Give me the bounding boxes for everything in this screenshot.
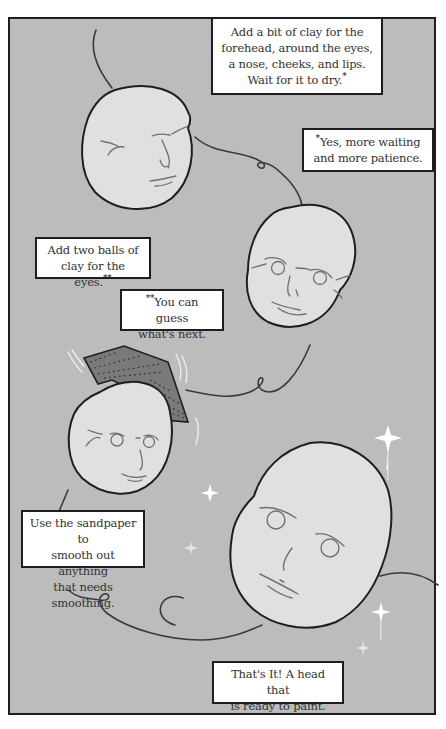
caption-line: Use the sandpaper to <box>29 515 137 547</box>
caption-line: a nose, cheeks, and lips. <box>219 56 375 72</box>
clay-head-stage-1 <box>82 86 192 209</box>
caption-note-guess: **You can guess what's next. <box>120 289 224 331</box>
caption-line: what's next. <box>128 326 216 342</box>
caption-line: Add two balls of <box>43 242 143 258</box>
caption-line: You can guess <box>154 295 198 325</box>
caption-line: That's It! A head that <box>220 666 336 698</box>
caption-line: Add a bit of clay for the <box>219 24 375 40</box>
caption-line: that needs smoothing. <box>29 579 137 611</box>
caption-line: and more patience. <box>310 150 426 166</box>
caption-line: clay for the eyes. <box>61 259 125 289</box>
caption-step-forehead: Add a bit of clay for the forehead, arou… <box>211 17 383 95</box>
caption-step-eyes: Add two balls of clay for the eyes.** <box>35 237 151 279</box>
caption-note-waiting: *Yes, more waiting and more patience. <box>302 128 434 172</box>
illustration-layer <box>0 0 446 729</box>
clay-head-stage-3 <box>69 382 172 494</box>
clay-head-stage-2 <box>247 205 355 327</box>
caption-step-sandpaper: Use the sandpaper to smooth out anything… <box>21 510 145 568</box>
footnote-star: * <box>342 71 346 81</box>
string-line <box>93 30 112 88</box>
caption-line: is ready to paint. <box>220 698 336 714</box>
caption-line: forehead, around the eyes, <box>219 40 375 56</box>
clay-head-stage-4 <box>230 442 391 627</box>
caption-step-done: That's It! A head that is ready to paint… <box>212 661 344 704</box>
footnote-star: ** <box>103 273 112 283</box>
caption-line: Yes, more waiting <box>320 135 420 149</box>
caption-line: smooth out anything <box>29 547 137 579</box>
caption-line: Wait for it to dry. <box>247 73 342 87</box>
